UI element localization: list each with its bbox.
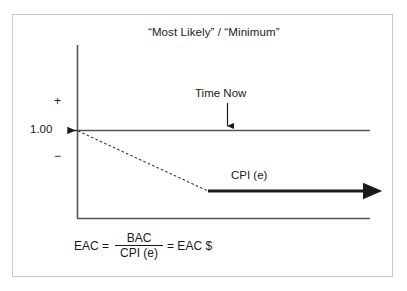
formula-rhs: = EAC $ xyxy=(167,240,212,252)
formula-fraction: BAC CPI (e) xyxy=(115,232,163,259)
y-axis-tick-label-one: 1.00 xyxy=(30,124,52,136)
cpi-trend-dashed-line xyxy=(78,131,208,191)
formula-numerator: BAC xyxy=(122,232,157,245)
formula-lhs: EAC = xyxy=(74,240,109,252)
chart-title: “Most Likely” / “Minimum” xyxy=(148,27,280,39)
cpi-e-label: CPI (e) xyxy=(231,170,267,182)
formula-denominator: CPI (e) xyxy=(115,246,163,259)
eac-formula: EAC = BAC CPI (e) = EAC $ xyxy=(74,232,212,259)
time-now-label: Time Now xyxy=(195,88,246,100)
y-axis-negative-label: − xyxy=(54,150,61,162)
y-axis-positive-label: + xyxy=(54,95,61,107)
figure-container: “Most Likely” / “Minimum” + − 1.00 Time … xyxy=(0,0,407,291)
